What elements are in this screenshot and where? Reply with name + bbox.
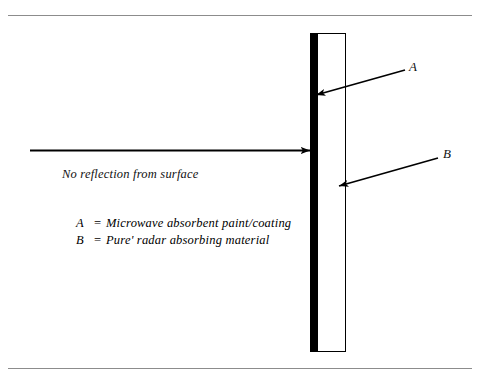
callout-label-b: B (443, 147, 451, 162)
legend-item: B = Pure' radar absorbing material (76, 233, 291, 248)
callout-arrow-b (339, 158, 438, 186)
legend-description: Microwave absorbent paint/coating (106, 216, 291, 231)
callout-label-a: A (409, 60, 417, 75)
legend: A = Microwave absorbent paint/coating B … (76, 216, 291, 250)
bottom-divider-rule (8, 368, 472, 369)
legend-key: B (76, 233, 89, 248)
legend-equals-sign: = (89, 216, 106, 231)
caption-no-reflection: No reflection from surface (62, 167, 199, 181)
legend-description: Pure' radar absorbing material (106, 233, 269, 248)
callout-arrow-a (316, 70, 405, 95)
legend-key: A (76, 216, 89, 231)
legend-equals-sign: = (89, 233, 106, 248)
arrow-overlay (0, 0, 479, 382)
figure-canvas: A B No reflection from surface A = Micro… (0, 0, 479, 382)
legend-item: A = Microwave absorbent paint/coating (76, 216, 291, 231)
